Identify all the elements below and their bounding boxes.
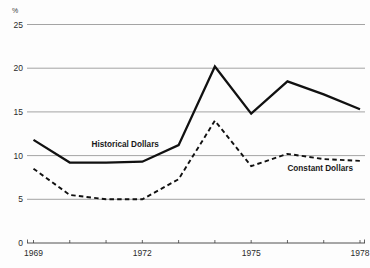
- y-tick-label-15: 15: [14, 107, 24, 117]
- series-annotations: Historical DollarsConstant Dollars: [92, 140, 354, 173]
- chart-plot-area: 0510152025 1969197219751978 Historical D…: [0, 0, 370, 268]
- y-axis-ticks: 0510152025: [14, 20, 24, 249]
- x-axis: [27, 240, 365, 244]
- x-tick-label-1975: 1975: [242, 248, 261, 258]
- annotation-constant-dollars: Constant Dollars: [287, 164, 353, 173]
- y-tick-label-0: 0: [18, 238, 23, 248]
- annotation-historical-dollars: Historical Dollars: [92, 140, 160, 149]
- y-tick-label-10: 10: [14, 151, 24, 161]
- x-tick-label-1969: 1969: [24, 248, 43, 258]
- y-axis-unit-label: %: [12, 7, 18, 14]
- series-line-constant-dollars: [34, 121, 361, 200]
- y-tick-label-25: 25: [14, 20, 24, 30]
- y-tick-label-20: 20: [14, 63, 24, 73]
- x-tick-label-1978: 1978: [351, 248, 370, 258]
- line-chart: 0510152025 1969197219751978 Historical D…: [0, 0, 370, 268]
- data-series: [34, 66, 361, 199]
- y-tick-label-5: 5: [18, 194, 23, 204]
- x-tick-label-1972: 1972: [133, 248, 152, 258]
